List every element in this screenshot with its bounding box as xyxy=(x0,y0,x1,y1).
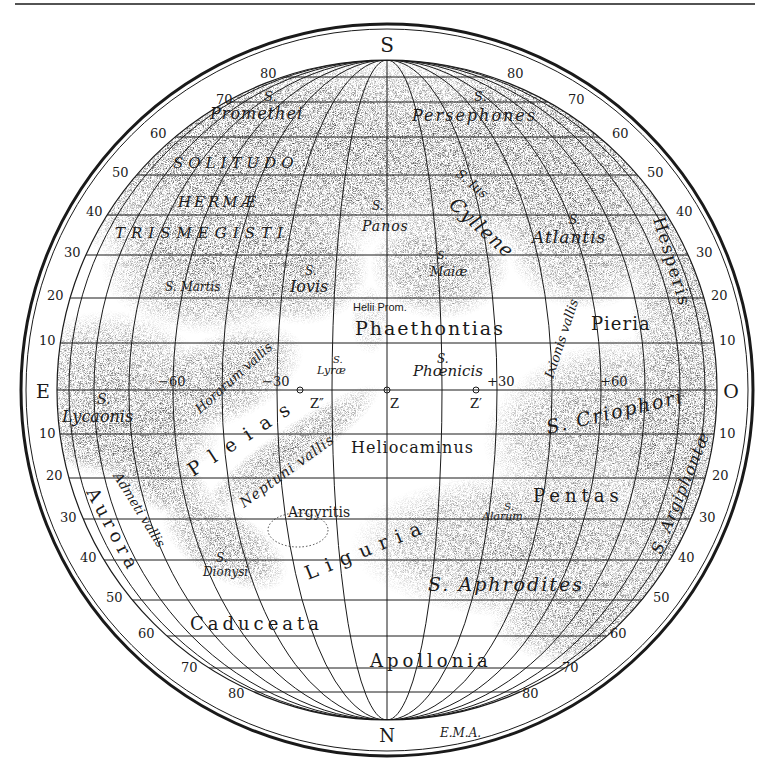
svg-text:30: 30 xyxy=(60,510,77,525)
svg-text:Phaethontias: Phaethontias xyxy=(355,317,505,339)
svg-text:70: 70 xyxy=(568,92,585,107)
svg-text:Z: Z xyxy=(390,396,399,411)
svg-text:HERMÆ: HERMÆ xyxy=(177,193,259,211)
svg-text:40: 40 xyxy=(80,550,97,565)
compass-north: N xyxy=(379,725,395,746)
svg-text:Promethei: Promethei xyxy=(209,104,303,123)
svg-text:S.: S. xyxy=(372,199,384,213)
svg-text:Phœnicis: Phœnicis xyxy=(412,362,483,380)
svg-text:10: 10 xyxy=(719,333,736,348)
svg-text:40: 40 xyxy=(676,204,693,219)
svg-text:Lyræ: Lyræ xyxy=(316,364,346,377)
svg-text:Pentas: Pentas xyxy=(533,485,624,506)
compass-south: S xyxy=(380,33,394,57)
svg-text:80: 80 xyxy=(522,686,539,701)
svg-text:50: 50 xyxy=(112,165,129,180)
svg-text:60: 60 xyxy=(150,126,167,141)
svg-text:S. Aphrodites: S. Aphrodites xyxy=(428,573,584,595)
svg-text:Atlantis: Atlantis xyxy=(530,227,606,247)
svg-text:30: 30 xyxy=(699,510,716,525)
compass-west: O xyxy=(723,380,739,402)
svg-text:+60: +60 xyxy=(600,374,627,389)
svg-text:Maiæ: Maiæ xyxy=(429,264,467,279)
svg-text:80: 80 xyxy=(228,686,245,701)
svg-text:Helii Prom.: Helii Prom. xyxy=(353,301,407,313)
svg-text:S.: S. xyxy=(474,89,487,104)
svg-text:−60: −60 xyxy=(158,374,185,389)
svg-text:Persephones: Persephones xyxy=(411,106,537,125)
compass-east: E xyxy=(36,380,50,402)
svg-text:S. Martis: S. Martis xyxy=(165,280,220,294)
svg-text:30: 30 xyxy=(64,245,81,260)
svg-text:40: 40 xyxy=(678,550,695,565)
svg-text:S.: S. xyxy=(305,264,317,278)
svg-text:60: 60 xyxy=(612,126,629,141)
svg-text:S.: S. xyxy=(569,213,581,227)
svg-text:Argyritis: Argyritis xyxy=(287,504,350,520)
svg-text:50: 50 xyxy=(653,590,670,605)
svg-text:S.: S. xyxy=(97,391,111,407)
svg-text:S.: S. xyxy=(437,249,448,262)
svg-text:20: 20 xyxy=(711,288,728,303)
svg-text:20: 20 xyxy=(46,468,63,483)
signature: E.M.A. xyxy=(439,726,481,740)
svg-text:10: 10 xyxy=(39,426,56,441)
svg-text:10: 10 xyxy=(39,333,56,348)
svg-text:50: 50 xyxy=(647,165,664,180)
svg-text:+30: +30 xyxy=(487,374,514,389)
svg-text:80: 80 xyxy=(260,66,277,81)
svg-text:SOLITUDO: SOLITUDO xyxy=(173,154,298,172)
svg-text:TRISMEGISTI: TRISMEGISTI xyxy=(115,224,289,242)
svg-text:Heliocaminus: Heliocaminus xyxy=(351,438,474,457)
svg-text:60: 60 xyxy=(610,626,627,641)
svg-text:Alarum: Alarum xyxy=(481,510,523,523)
svg-text:70: 70 xyxy=(562,660,579,675)
svg-text:60: 60 xyxy=(138,626,155,641)
svg-text:Caduceata: Caduceata xyxy=(190,613,323,634)
svg-text:Z″: Z″ xyxy=(310,396,324,411)
mercury-map: S N E O E.M.A. 80 70 60 50 40 30 20 10 8… xyxy=(0,0,769,771)
svg-text:Pieria: Pieria xyxy=(591,313,651,334)
svg-text:Z′: Z′ xyxy=(470,396,482,411)
svg-text:80: 80 xyxy=(507,66,524,81)
svg-text:30: 30 xyxy=(696,245,713,260)
svg-text:S.: S. xyxy=(264,89,277,104)
svg-text:Dionysi: Dionysi xyxy=(202,565,248,579)
svg-text:Panos: Panos xyxy=(361,218,409,234)
svg-text:50: 50 xyxy=(106,590,123,605)
svg-text:Apollonia: Apollonia xyxy=(369,650,492,671)
svg-text:−30: −30 xyxy=(262,374,289,389)
svg-text:S.: S. xyxy=(216,551,228,565)
svg-text:10: 10 xyxy=(719,426,736,441)
svg-text:40: 40 xyxy=(86,204,103,219)
svg-text:20: 20 xyxy=(712,468,729,483)
svg-text:Iovis: Iovis xyxy=(289,277,328,296)
svg-text:20: 20 xyxy=(47,288,64,303)
svg-text:70: 70 xyxy=(181,660,198,675)
svg-text:Lycaonis: Lycaonis xyxy=(61,407,133,426)
